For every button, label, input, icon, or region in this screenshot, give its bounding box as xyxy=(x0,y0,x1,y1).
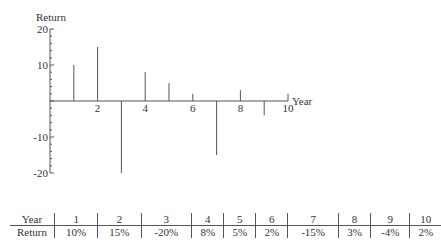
return-row: Return 10% 15% -20% 8% 5% 2% -15% 3% -4%… xyxy=(10,226,441,239)
x-tick-label: 4 xyxy=(142,102,148,114)
year-cell: 5 xyxy=(224,213,256,226)
return-cell: 10% xyxy=(55,226,98,239)
year-cell: 7 xyxy=(288,213,339,226)
year-cell: 3 xyxy=(141,213,192,226)
x-tick-label: 6 xyxy=(190,102,196,114)
year-cell: 2 xyxy=(98,213,141,226)
returns-table: Year 1 2 3 4 5 6 7 8 9 10 Return 10% 15%… xyxy=(10,213,441,238)
return-cell: 2% xyxy=(410,226,441,239)
year-cell: 4 xyxy=(192,213,224,226)
year-cell: 8 xyxy=(338,213,370,226)
y-tick-label: 10 xyxy=(37,59,49,71)
x-tick-label: 8 xyxy=(238,102,244,114)
return-cell: -20% xyxy=(141,226,192,239)
return-cell: 3% xyxy=(338,226,370,239)
y-tick-label: -10 xyxy=(33,131,48,143)
year-cell: 1 xyxy=(55,213,98,226)
year-row: Year 1 2 3 4 5 6 7 8 9 10 xyxy=(10,213,441,226)
return-cell: 15% xyxy=(98,226,141,239)
return-cell: 8% xyxy=(192,226,224,239)
x-tick-label: 2 xyxy=(95,102,101,114)
stem-chart: 2010-10-20Return246810Year xyxy=(0,0,441,205)
return-cell: -4% xyxy=(371,226,410,239)
year-cell: 9 xyxy=(371,213,410,226)
x-axis-label: Year xyxy=(292,95,313,107)
y-axis-label: Return xyxy=(36,11,66,23)
y-tick-label: -20 xyxy=(33,167,48,179)
year-cell: 6 xyxy=(256,213,288,226)
year-header: Year xyxy=(10,213,55,226)
return-cell: -15% xyxy=(288,226,339,239)
year-cell: 10 xyxy=(410,213,441,226)
return-cell: 5% xyxy=(224,226,256,239)
return-cell: 2% xyxy=(256,226,288,239)
y-tick-label: 20 xyxy=(37,23,49,35)
return-header: Return xyxy=(10,226,55,239)
